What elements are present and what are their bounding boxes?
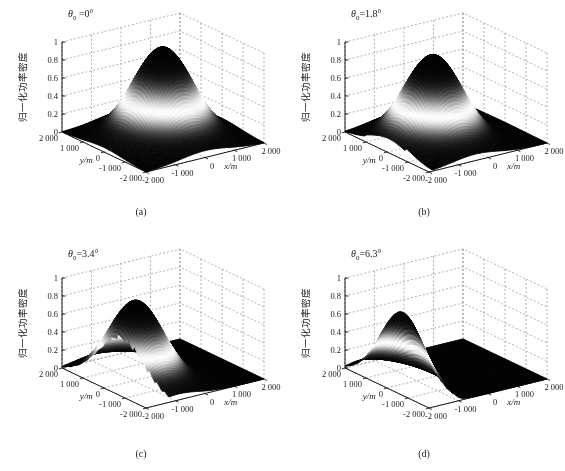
title-value: =0°	[76, 8, 93, 19]
plot-title-b: θ0=1.8°	[351, 8, 382, 22]
subplot-d: θ0=6.3° (d)	[283, 236, 565, 471]
plot-title-a: θ0 =0°	[68, 8, 94, 22]
caption-a: (a)	[0, 206, 282, 217]
figure-four-surface-plots: θ0 =0° (a) θ0=1.8° (b) θ0=3.4° (c) θ0=6.…	[0, 0, 565, 471]
caption-b: (b)	[283, 206, 565, 217]
caption-c: (c)	[0, 448, 282, 459]
caption-d: (d)	[283, 448, 565, 459]
surface-plot-canvas-a	[0, 0, 282, 235]
plot-title-c: θ0=3.4°	[68, 248, 99, 262]
subplot-a: θ0 =0° (a)	[0, 0, 282, 235]
title-value: =1.8°	[359, 8, 381, 19]
title-value: =6.3°	[359, 248, 381, 259]
subplot-b: θ0=1.8° (b)	[283, 0, 565, 235]
subplot-c: θ0=3.4° (c)	[0, 236, 282, 471]
title-value: =3.4°	[76, 248, 98, 259]
surface-plot-canvas-c	[0, 236, 282, 471]
surface-plot-canvas-b	[283, 0, 565, 235]
plot-title-d: θ0=6.3°	[351, 248, 382, 262]
surface-plot-canvas-d	[283, 236, 565, 471]
